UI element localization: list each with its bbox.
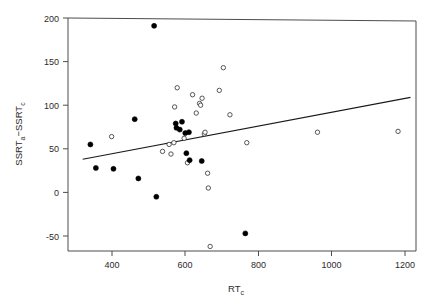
y-axis-title-p2: −SSRT <box>13 106 24 137</box>
axis-titles: RTc SSRTa−SSRTc <box>13 102 245 296</box>
y-axis-title: SSRTa−SSRTc <box>13 102 26 166</box>
data-point <box>111 166 116 171</box>
data-point <box>217 88 221 92</box>
plot-canvas: 200 150 100 50 0 -50 400 600 800 1000 12… <box>0 0 432 306</box>
data-point <box>167 142 171 146</box>
y-axis-title-p3: c <box>19 102 26 106</box>
data-point <box>200 96 204 100</box>
ytick-label-200: 200 <box>44 14 59 24</box>
data-point <box>136 176 141 181</box>
data-point <box>169 152 173 156</box>
data-point <box>187 158 192 163</box>
x-axis-title-main: RT <box>228 283 241 294</box>
x-axis-title-sub: c <box>241 289 245 296</box>
xtick-label-400: 400 <box>104 260 119 270</box>
data-point <box>184 151 189 156</box>
xtick-label-1200: 1200 <box>395 260 415 270</box>
open-circle-series <box>109 66 400 249</box>
data-point <box>203 130 207 134</box>
data-point <box>93 165 98 170</box>
data-point <box>228 113 232 117</box>
data-point <box>198 103 202 107</box>
data-point <box>152 23 157 28</box>
y-axis-title-p0: SSRT <box>13 140 24 165</box>
x-axis-title: RTc <box>228 283 245 296</box>
regression-line <box>83 97 411 159</box>
filled-circle-series <box>88 23 248 236</box>
ytick-label-100: 100 <box>44 101 59 111</box>
data-point <box>109 134 113 138</box>
ytick-label-0: 0 <box>54 188 59 198</box>
data-point <box>88 142 93 147</box>
data-point <box>154 194 159 199</box>
data-point <box>177 127 182 132</box>
data-point <box>206 186 210 190</box>
data-point <box>221 66 225 70</box>
data-point <box>205 171 209 175</box>
data-point <box>243 231 248 236</box>
data-point <box>245 140 249 144</box>
data-point <box>182 136 186 140</box>
data-point <box>186 130 191 135</box>
xtick-label-600: 600 <box>177 260 192 270</box>
data-point <box>190 93 194 97</box>
data-point <box>132 117 137 122</box>
data-point <box>175 86 179 90</box>
data-point <box>208 244 212 248</box>
data-point <box>194 111 198 115</box>
y-axis-tick-labels: 200 150 100 50 0 -50 <box>44 14 59 242</box>
data-point <box>160 149 164 153</box>
plot-border <box>68 18 416 251</box>
x-axis-tick-labels: 400 600 800 1000 1200 <box>104 260 415 270</box>
xtick-label-1000: 1000 <box>321 260 341 270</box>
regression-line-group <box>83 97 411 159</box>
x-axis-ticks <box>112 251 405 256</box>
ytick-label-neg50: -50 <box>46 232 59 242</box>
data-point <box>199 159 204 164</box>
data-point <box>179 119 184 124</box>
plot-frame <box>68 18 416 251</box>
xtick-label-800: 800 <box>251 260 266 270</box>
data-point <box>172 140 176 144</box>
ytick-label-50: 50 <box>49 144 59 154</box>
data-point <box>315 130 319 134</box>
data-point <box>396 129 400 133</box>
data-point <box>172 105 176 109</box>
ytick-label-150: 150 <box>44 57 59 67</box>
y-axis-ticks <box>63 18 68 236</box>
scatter-plot-figure: 200 150 100 50 0 -50 400 600 800 1000 12… <box>0 0 432 306</box>
